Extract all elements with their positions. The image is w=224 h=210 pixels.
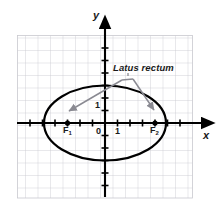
focus-label-f2-text: F [150,125,156,135]
focus-label-f1: F1 [63,126,72,135]
latus-rectum-label: Latus rectum [113,63,174,73]
focus-label-f2-subscript: 2 [156,130,159,136]
origin-label: 0 [96,127,101,136]
y-axis-label: y [93,10,99,21]
ellipse-latus-rectum-figure: y x 0 1 1 F1 F2 Latus rectum [0,0,224,210]
x-axis-label: x [203,130,209,141]
focus-label-f2: F2 [150,126,159,135]
y-unit-label: 1 [95,101,100,110]
focus-label-f1-subscript: 1 [69,130,72,136]
x-unit-label: 1 [115,127,120,136]
figure-canvas [0,0,224,210]
focus-label-f1-text: F [63,125,69,135]
